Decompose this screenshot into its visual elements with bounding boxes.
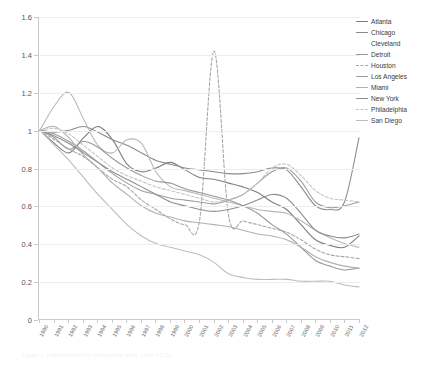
legend-item[interactable]: Atlanta [356, 16, 432, 27]
y-axis-tick-mark [34, 320, 38, 321]
gridline [39, 206, 360, 207]
legend-swatch-icon [356, 87, 368, 88]
x-axis-tick-mark [155, 320, 156, 323]
x-axis-tick-label: 2011 [344, 324, 355, 337]
y-axis-tick-label: 1.2 [0, 88, 32, 97]
legend-item[interactable]: Los Angeles [356, 71, 432, 82]
y-axis-tick-label: 0.4 [0, 240, 32, 249]
x-axis-tick-mark [286, 320, 287, 323]
x-axis-tick-mark [199, 320, 200, 323]
legend-swatch-icon [356, 120, 368, 121]
plot-area [38, 17, 360, 320]
legend-swatch-icon [356, 76, 368, 77]
y-axis-tick-mark [34, 55, 38, 56]
y-axis-tick-mark [34, 17, 38, 18]
x-axis-tick-mark [126, 320, 127, 323]
x-axis-tick-label: 2002 [213, 324, 224, 338]
x-axis-tick-label: 2010 [329, 324, 340, 338]
chart-legend: AtlantaChicagoClevelandDetroitHoustonLos… [356, 16, 432, 126]
x-axis-tick-mark [141, 320, 142, 323]
legend-item-label: San Diego [371, 115, 402, 126]
x-axis-tick-mark [97, 320, 98, 323]
series-line [40, 128, 359, 202]
x-axis-tick-mark [243, 320, 244, 323]
y-axis-tick-label: 0.2 [0, 278, 32, 287]
gridline [39, 131, 360, 132]
x-axis-tick-mark [214, 320, 215, 323]
legend-item-label: Los Angeles [371, 71, 407, 82]
x-axis-tick-mark [112, 320, 113, 323]
y-axis-tick-label: 1 [0, 126, 32, 135]
gridline [39, 93, 360, 94]
y-axis-tick-label: 0.8 [0, 164, 32, 173]
legend-item[interactable]: Cleveland [356, 38, 432, 49]
legend-item-label: Detroit [371, 49, 390, 60]
legend-item-label: New York [371, 93, 399, 104]
legend-item[interactable]: Chicago [356, 27, 432, 38]
x-axis-tick-mark [184, 320, 185, 323]
x-axis-tick-label: 2008 [300, 324, 311, 338]
y-axis-tick-mark [34, 131, 38, 132]
gridline [39, 17, 360, 18]
x-axis-tick-mark [228, 320, 229, 323]
y-axis-tick-label: 1.6 [0, 13, 32, 22]
gridline [39, 55, 360, 56]
legend-swatch-icon [356, 43, 368, 44]
legend-item-label: Chicago [371, 27, 395, 38]
legend-item[interactable]: New York [356, 93, 432, 104]
x-axis-tick-mark [39, 320, 40, 323]
x-axis-tick-label: 1994 [96, 324, 107, 338]
x-axis-tick-mark [68, 320, 69, 323]
x-axis-tick-label: 1999 [169, 324, 180, 338]
legend-item[interactable]: Miami [356, 82, 432, 93]
x-axis-tick-label: 2000 [184, 324, 195, 338]
x-axis-tick-mark [301, 320, 302, 323]
y-axis-tick-label: 0 [0, 316, 32, 325]
legend-item[interactable]: Detroit [356, 49, 432, 60]
legend-swatch-icon [356, 109, 368, 110]
x-axis-tick-mark [257, 320, 258, 323]
x-axis-tick-label: 2005 [256, 324, 267, 338]
gridline [39, 169, 360, 170]
legend-swatch-icon [356, 98, 368, 99]
legend-item[interactable]: Houston [356, 60, 432, 71]
chart-figure: 00.20.40.60.811.21.41.6 1990199119921993… [0, 0, 432, 367]
x-axis-tick-mark [54, 320, 55, 323]
legend-swatch-icon [356, 21, 368, 22]
x-axis-tick-label: 2007 [285, 324, 296, 338]
legend-item-label: Atlanta [371, 16, 392, 27]
legend-swatch-icon [356, 32, 368, 33]
x-axis-tick-label: 1996 [125, 324, 136, 338]
x-axis-tick-label: 2004 [242, 324, 253, 338]
x-axis-tick-mark [170, 320, 171, 323]
y-axis-tick-mark [34, 169, 38, 170]
x-axis-tick-label: 2012 [358, 324, 369, 338]
x-axis-tick-label: 1990 [38, 324, 49, 338]
y-axis: 00.20.40.60.811.21.41.6 [0, 0, 36, 367]
legend-item-label: Cleveland [371, 38, 400, 49]
x-axis-tick-mark [315, 320, 316, 323]
y-axis-tick-label: 1.4 [0, 50, 32, 59]
legend-swatch-icon [356, 65, 368, 66]
figure-caption: Figure 1. Indexed trend by metropolitan … [22, 352, 422, 358]
legend-swatch-icon [356, 54, 368, 55]
x-axis-tick-label: 2006 [271, 324, 282, 338]
y-axis-tick-label: 0.6 [0, 202, 32, 211]
y-axis-tick-mark [34, 244, 38, 245]
legend-item-label: Miami [371, 82, 389, 93]
x-axis-tick-mark [344, 320, 345, 323]
x-axis-tick-label: 2001 [198, 324, 209, 338]
x-axis-tick-label: 1998 [155, 324, 166, 338]
x-axis-tick-label: 1993 [82, 324, 93, 338]
x-axis-tick-mark [272, 320, 273, 323]
legend-item[interactable]: San Diego [356, 115, 432, 126]
x-axis-tick-label: 2009 [315, 324, 326, 338]
x-axis-tick-mark [359, 320, 360, 323]
gridline [39, 282, 360, 283]
gridline [39, 244, 360, 245]
x-axis-tick-mark [330, 320, 331, 323]
x-axis-tick-mark [83, 320, 84, 323]
legend-item[interactable]: Philadelphia [356, 104, 432, 115]
x-axis-tick-label: 1995 [111, 324, 122, 338]
legend-item-label: Houston [371, 60, 396, 71]
